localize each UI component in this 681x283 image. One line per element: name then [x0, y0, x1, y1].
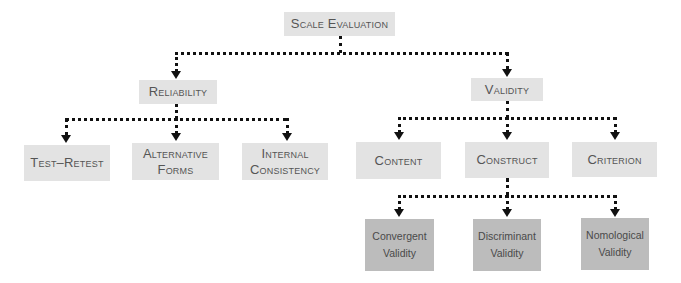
node-label-line1: Alternative	[143, 146, 208, 162]
connector-reliability-down	[175, 104, 178, 119]
connector-to-alternative-forms	[175, 118, 178, 134]
node-label: Validity	[485, 82, 529, 98]
node-label-line1: Convergent	[372, 228, 426, 245]
node-scale-evaluation: Scale Evaluation	[284, 12, 395, 36]
arrow-down-icon	[394, 209, 404, 217]
arrow-down-icon	[171, 71, 181, 79]
connector-root-horizontal	[175, 52, 508, 55]
node-validity: Validity	[471, 78, 543, 101]
node-label-line2: Consistency	[250, 162, 320, 178]
node-alternative-forms: Alternative Forms	[132, 143, 219, 180]
node-label: Criterion	[587, 152, 641, 168]
node-label-line2: Validity	[598, 244, 631, 261]
arrow-down-icon	[502, 132, 512, 140]
node-label-line2: Forms	[158, 162, 194, 178]
connector-to-test-retest	[65, 118, 68, 136]
node-label: Content	[375, 153, 423, 169]
arrow-down-icon	[610, 132, 620, 140]
connector-to-construct	[506, 117, 509, 133]
node-label: Scale Evaluation	[291, 16, 388, 32]
connector-to-criterion	[614, 117, 617, 133]
node-construct: Construct	[465, 142, 549, 178]
node-label-line1: Internal	[261, 146, 308, 162]
connector-to-convergent	[398, 195, 401, 210]
arrow-down-icon	[61, 135, 71, 143]
node-test-retest: Test–Retest	[24, 145, 110, 181]
node-label: Reliability	[149, 84, 208, 100]
node-criterion: Criterion	[572, 142, 657, 177]
arrow-down-icon	[502, 69, 512, 77]
node-label-line2: Validity	[383, 245, 416, 262]
arrow-down-icon	[502, 209, 512, 217]
connector-to-reliability	[175, 52, 178, 72]
node-label-line1: Discriminant	[478, 228, 536, 245]
connector-validity-down	[506, 101, 509, 118]
node-label-line2: Validity	[490, 245, 523, 262]
node-label: Test–Retest	[30, 155, 103, 171]
connector-to-nomological	[614, 195, 617, 210]
node-discriminant-validity: Discriminant Validity	[473, 219, 541, 271]
arrow-down-icon	[171, 133, 181, 141]
connector-to-discriminant	[506, 195, 509, 210]
node-nomological-validity: Nomological Validity	[581, 218, 649, 270]
arrow-down-icon	[394, 132, 404, 140]
node-internal-consistency: Internal Consistency	[242, 143, 328, 180]
connector-root-down	[339, 36, 342, 53]
connector-construct-down	[506, 178, 509, 196]
node-label-line1: Nomological	[586, 227, 644, 244]
node-convergent-validity: Convergent Validity	[365, 219, 434, 271]
connector-to-internal-consistency	[286, 118, 289, 134]
node-reliability: Reliability	[139, 80, 217, 104]
connector-to-content	[398, 117, 401, 133]
connector-to-validity	[506, 52, 509, 70]
node-content: Content	[356, 142, 441, 179]
arrow-down-icon	[610, 209, 620, 217]
arrow-down-icon	[282, 133, 292, 141]
node-label: Construct	[476, 152, 537, 168]
